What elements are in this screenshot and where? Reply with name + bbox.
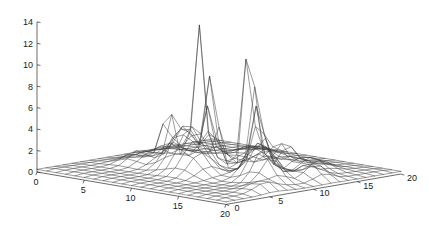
svg-text:2: 2 <box>28 146 33 156</box>
svg-text:4: 4 <box>28 124 33 134</box>
svg-text:14: 14 <box>23 17 33 27</box>
svg-text:10: 10 <box>23 60 33 70</box>
svg-text:20: 20 <box>220 209 230 219</box>
svg-text:5: 5 <box>81 185 86 195</box>
mesh-surface-wireframe <box>37 25 401 202</box>
svg-text:5: 5 <box>278 196 283 206</box>
plot-canvas: 024681012140510152005101520 <box>0 0 429 243</box>
tick-labels-group: 024681012140510152005101520 <box>23 17 417 219</box>
svg-text:15: 15 <box>173 201 183 211</box>
axes-group <box>36 22 404 208</box>
svg-text:10: 10 <box>125 193 135 203</box>
svg-text:0: 0 <box>33 177 38 187</box>
svg-text:0: 0 <box>234 203 239 213</box>
svg-text:15: 15 <box>363 181 373 191</box>
svg-text:10: 10 <box>319 188 329 198</box>
svg-text:20: 20 <box>407 173 417 183</box>
svg-text:6: 6 <box>28 103 33 113</box>
svg-text:8: 8 <box>28 82 33 92</box>
svg-text:0: 0 <box>28 167 33 177</box>
mesh-plot-figure: 024681012140510152005101520 <box>0 0 429 243</box>
svg-text:12: 12 <box>23 39 33 49</box>
